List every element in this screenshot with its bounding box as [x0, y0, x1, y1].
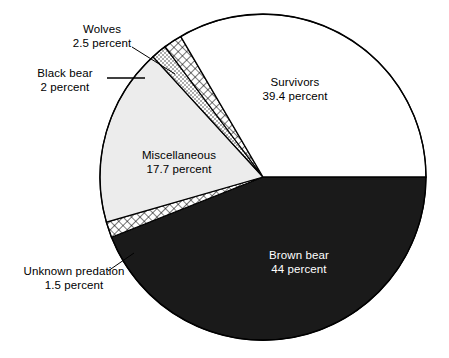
- slice-label-black-bear-value: 2 percent: [6, 80, 124, 94]
- slice-label-black-bear-name: Black bear: [6, 66, 124, 80]
- slice-label-unknown-predation-name: Unknown predation: [0, 264, 148, 278]
- slice-label-unknown-predation-value: 1.5 percent: [0, 278, 148, 292]
- slice-label-wolves-name: Wolves: [47, 22, 157, 36]
- slice-label-brown-bear: Brown bear 44 percent: [244, 248, 354, 276]
- slice-label-wolves-value: 2.5 percent: [47, 36, 157, 50]
- slice-label-survivors-name: Survivors: [238, 75, 352, 89]
- slice-label-brown-bear-name: Brown bear: [244, 248, 354, 262]
- slice-label-miscellaneous-name: Miscellaneous: [112, 148, 246, 162]
- slice-label-survivors-value: 39.4 percent: [238, 89, 352, 103]
- slice-label-black-bear: Black bear 2 percent: [6, 66, 124, 94]
- pie-chart-canvas: [0, 0, 449, 358]
- slice-label-wolves: Wolves 2.5 percent: [47, 22, 157, 50]
- slice-label-brown-bear-value: 44 percent: [244, 262, 354, 276]
- slice-label-miscellaneous-value: 17.7 percent: [112, 162, 246, 176]
- slice-label-miscellaneous: Miscellaneous 17.7 percent: [112, 148, 246, 176]
- pie-chart: Wolves 2.5 percent Black bear 2 percent …: [0, 0, 449, 358]
- slice-label-survivors: Survivors 39.4 percent: [238, 75, 352, 103]
- slice-label-unknown-predation: Unknown predation 1.5 percent: [0, 264, 148, 292]
